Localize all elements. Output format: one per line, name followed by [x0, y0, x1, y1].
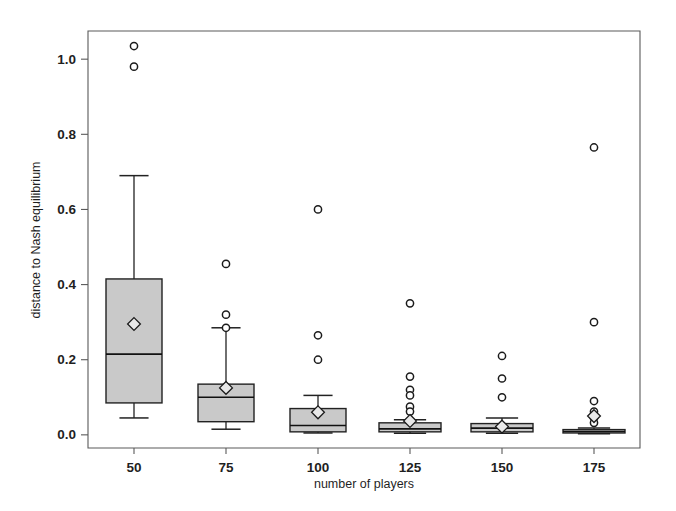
x-tick-label: 125 — [399, 460, 422, 475]
box-group — [106, 176, 162, 418]
outlier-point — [498, 375, 505, 382]
box-layer — [106, 176, 625, 434]
x-tick-label: 75 — [218, 460, 234, 475]
outlier-point — [406, 373, 413, 380]
y-axis-title: distance to Nash equilibrium — [29, 161, 43, 318]
outlier-point — [406, 392, 413, 399]
y-tick-label: 0.8 — [57, 127, 76, 142]
outlier-point — [222, 311, 229, 318]
plot-canvas: 0.00.20.40.60.81.0 5075100125150175 dist… — [0, 0, 676, 511]
outlier-point — [314, 332, 321, 339]
outlier-point — [590, 144, 597, 151]
y-axis-ticks: 0.00.20.40.60.81.0 — [57, 52, 88, 443]
outlier-point — [406, 300, 413, 307]
outlier-point — [222, 324, 229, 331]
outlier-point — [498, 394, 505, 401]
mean-diamond-marker — [588, 410, 601, 423]
x-tick-label: 175 — [583, 460, 606, 475]
x-tick-label: 100 — [307, 460, 330, 475]
outlier-point — [590, 319, 597, 326]
boxplot-figure: 0.00.20.40.60.81.0 5075100125150175 dist… — [0, 0, 676, 511]
box-group — [563, 428, 625, 434]
outlier-point — [222, 260, 229, 267]
outlier-point — [498, 352, 505, 359]
outlier-point — [314, 206, 321, 213]
box-rect — [106, 279, 162, 403]
outlier-point — [314, 356, 321, 363]
x-axis-ticks: 5075100125150175 — [126, 448, 605, 475]
x-axis-title: number of players — [314, 477, 414, 491]
outlier-layer — [128, 42, 601, 433]
axes-frame — [88, 31, 640, 448]
y-tick-label: 0.4 — [57, 277, 76, 292]
y-tick-label: 0.2 — [57, 352, 76, 367]
y-tick-label: 1.0 — [57, 52, 76, 67]
y-tick-label: 0.0 — [57, 427, 76, 442]
y-tick-label: 0.6 — [57, 202, 76, 217]
outlier-point — [130, 63, 137, 70]
box-group — [198, 328, 254, 429]
outlier-point — [590, 397, 597, 404]
x-tick-label: 50 — [126, 460, 141, 475]
x-tick-label: 150 — [491, 460, 514, 475]
outlier-point — [130, 42, 137, 49]
